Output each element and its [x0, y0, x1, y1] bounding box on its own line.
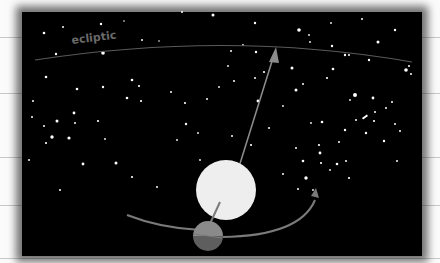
sun: [196, 160, 256, 220]
orbit-arrow-icon: [311, 188, 319, 198]
earth: [190, 218, 226, 254]
direction-arrow: [238, 47, 279, 170]
ecliptic-line: [35, 45, 412, 62]
celestial-diagram: ecliptic: [0, 0, 440, 263]
earth-orbit-back: [127, 215, 200, 230]
ecliptic-label: ecliptic: [71, 29, 117, 47]
